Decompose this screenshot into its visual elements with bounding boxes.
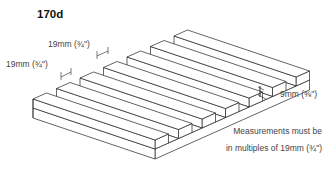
groove-depth-label: 9mm (⅜") bbox=[280, 89, 317, 99]
note-line-2: in multiples of 19mm (¾") bbox=[226, 143, 322, 153]
groove-width-label: 19mm (¾") bbox=[6, 59, 48, 69]
figure-label: 170d bbox=[37, 8, 63, 20]
note-line-1: Measurements must be bbox=[233, 126, 322, 136]
ridge-width-label: 19mm (¾") bbox=[48, 39, 90, 49]
